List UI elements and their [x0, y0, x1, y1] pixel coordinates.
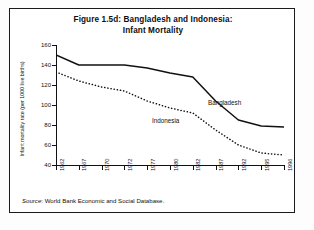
y-axis-tick-label: 80	[31, 122, 51, 128]
y-axis-tick-label: 160	[31, 42, 51, 48]
figure-title-line2: Infant Mortality	[10, 26, 296, 37]
y-axis-tick-label: 120	[31, 82, 51, 88]
y-axis-tick-label: 40	[31, 162, 51, 168]
x-axis-tick-label: 1972	[127, 159, 133, 171]
y-axis-tick	[52, 65, 57, 66]
figure-frame: Figure 1.5d: Bangladesh and Indonesia: I…	[9, 8, 295, 213]
x-axis-tick-label: 1970	[104, 159, 110, 171]
x-axis-tick-label: 1977	[150, 159, 156, 171]
y-axis-tick	[52, 45, 57, 46]
x-axis-tick-label: 1962	[59, 159, 65, 171]
x-axis-tick	[284, 165, 285, 170]
series-annotation-bangladesh: Bangladesh	[208, 99, 241, 106]
x-axis-tick-label: 1980	[173, 159, 179, 171]
y-axis-tick-label: 140	[31, 62, 51, 68]
plot-area-wrapper: Infant mortality rate (per 1000 live bir…	[10, 39, 296, 187]
y-axis-tick-label: 60	[31, 142, 51, 148]
x-axis-tick	[261, 165, 262, 170]
y-axis-tick	[52, 85, 57, 86]
series-lines	[56, 45, 284, 165]
source-prefix: Source	[22, 197, 41, 204]
figure-title: Figure 1.5d: Bangladesh and Indonesia: I…	[10, 15, 296, 36]
x-axis-tick	[79, 165, 80, 170]
x-axis-tick	[170, 165, 171, 170]
x-axis-tick	[102, 165, 103, 170]
figure-page: Figure 1.5d: Bangladesh and Indonesia: I…	[0, 0, 314, 230]
series-line-indonesia	[56, 72, 284, 155]
y-axis-tick	[52, 145, 57, 146]
y-axis-tick	[52, 105, 57, 106]
chart-plot: 4060801001201401601962196719701972197719…	[56, 45, 284, 165]
x-axis-tick-label: 1996	[287, 159, 293, 171]
x-axis-tick	[216, 165, 217, 170]
source-note: Source: World Bank Economic and Social D…	[22, 197, 164, 205]
x-axis-tick-label: 1982	[195, 159, 201, 171]
x-axis-tick-label: 1987	[218, 159, 224, 171]
source-text: : World Bank Economic and Social Databas…	[41, 197, 164, 204]
y-axis-tick-label: 100	[31, 102, 51, 108]
x-axis-tick	[124, 165, 125, 170]
series-annotation-indonesia: Indonesia	[152, 117, 179, 124]
figure-title-line1: Figure 1.5d: Bangladesh and Indonesia:	[74, 15, 233, 24]
x-axis-tick-label: 1967	[81, 159, 87, 171]
y-axis-label: Infant mortality rate (per 1000 live bir…	[16, 39, 28, 179]
x-axis-tick-label: 1992	[241, 159, 247, 171]
x-axis-tick	[147, 165, 148, 170]
x-axis-tick	[238, 165, 239, 170]
x-axis-tick-label: 1995	[264, 159, 270, 171]
x-axis-tick	[193, 165, 194, 170]
x-axis-tick	[56, 165, 57, 170]
y-axis-tick	[52, 125, 57, 126]
